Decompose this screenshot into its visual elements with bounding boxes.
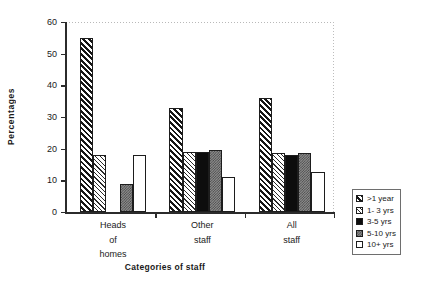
bar [120,184,133,213]
legend-label: 10+ yrs [367,240,393,249]
y-axis-tick-label: 50 [47,49,57,59]
x-axis-group-label-line: of [99,233,126,248]
x-axis-group-label: Otherstaff [191,218,214,247]
bar [80,38,93,212]
bar [93,155,106,212]
legend-label: 3-5 yrs [367,217,391,226]
bar [196,152,209,212]
bar-group [80,22,146,212]
x-axis-separator [155,212,156,218]
y-axis-tick-label: 30 [47,112,57,122]
legend-swatch-icon [356,230,363,237]
x-axis-group-label: Headsofhomes [99,218,126,262]
x-axis-title: Categories of staff [0,262,330,272]
bar [183,152,196,212]
legend-label: 5-10 yrs [367,229,396,238]
bar [133,155,146,212]
y-axis-tick [61,22,67,23]
bar-group [259,22,325,212]
legend-label: >1 year [367,194,394,203]
chart-legend: >1 year1- 3 yrs3-5 yrs5-10 yrs10+ yrs [352,189,401,255]
bar [298,153,311,212]
legend-item: 3-5 yrs [356,216,396,228]
y-axis-tick [61,85,67,86]
bar-group [169,22,235,212]
legend-item: 10+ yrs [356,239,396,251]
y-axis-tick [61,180,67,181]
x-axis-group-label-line: Other [191,218,214,233]
x-axis-group-label-line: staff [283,233,300,248]
legend-item: 1- 3 yrs [356,205,396,217]
y-axis-tick-label: 0 [52,207,57,217]
legend-swatch-icon [356,195,363,202]
y-axis-tick [61,149,67,150]
bar [259,98,272,212]
y-axis-tick [61,54,67,55]
x-axis-group-label-line: All [283,218,300,233]
y-axis-tick [61,117,67,118]
y-axis-tick-label: 40 [47,80,57,90]
x-axis-group-label-line: homes [99,247,126,262]
x-axis-line [65,212,334,214]
x-axis-group-label: Allstaff [283,218,300,247]
bar-chart: Percentages 0102030405060HeadsofhomesOth… [0,0,429,295]
legend-swatch-icon [356,207,363,214]
x-axis-separator [334,212,335,218]
legend-swatch-icon [356,218,363,225]
y-axis-title: Percentages [2,56,20,176]
x-axis-separator [245,212,246,218]
legend-label: 1- 3 yrs [367,206,394,215]
bar [209,150,222,212]
bar [272,153,285,212]
legend-swatch-icon [356,241,363,248]
x-axis-group-label-line: staff [191,233,214,248]
x-axis-group-label-line: Heads [99,218,126,233]
bar [285,155,298,212]
y-axis-tick-label: 60 [47,17,57,27]
y-axis-tick-label: 20 [47,144,57,154]
y-axis-tick-label: 10 [47,175,57,185]
bar [311,172,324,212]
y-axis-tick [61,212,67,213]
legend-item: >1 year [356,193,396,205]
legend-item: 5-10 yrs [356,228,396,240]
bar [169,108,182,213]
bar [222,177,235,212]
plot-area: 0102030405060HeadsofhomesOtherstaffAllst… [66,22,334,212]
plot-right-border [333,22,334,212]
